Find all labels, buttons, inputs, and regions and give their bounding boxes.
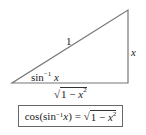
angle-fn: sin <box>31 71 44 83</box>
identity-radicand-prefix: 1 − <box>91 111 108 123</box>
hypotenuse-label: 1 <box>66 36 72 47</box>
angle-label: sin−1 x <box>31 72 59 83</box>
radicand-exp: 2 <box>83 86 87 94</box>
identity-box: cos(sin−1 x) = √1 − x2 <box>18 105 123 127</box>
identity-radicand-exp: 2 <box>113 110 117 118</box>
angle-var: x <box>54 71 59 83</box>
identity-lhs-prefix: cos(sin <box>25 110 56 122</box>
angle-sup: −1 <box>44 70 51 78</box>
identity-equals: = <box>72 110 84 122</box>
adjacent-side-label: √1 − x2 <box>54 88 87 100</box>
radicand-prefix: 1 − <box>61 88 78 100</box>
identity-lhs-sup: −1 <box>56 111 63 119</box>
opposite-side-label: x <box>131 47 136 58</box>
